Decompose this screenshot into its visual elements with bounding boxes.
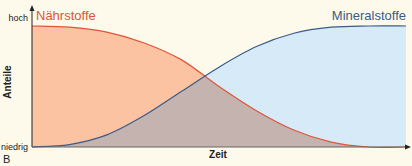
legend-naehrstoffe: Nährstoffe (36, 8, 96, 23)
x-axis-arrow-icon (405, 145, 411, 150)
y-tick-low: niedrig (1, 142, 28, 152)
y-axis-arrow-icon (30, 5, 35, 11)
y-axis-label: Anteile (2, 65, 13, 99)
y-tick-high: hoch (8, 13, 28, 23)
x-axis-label: Zeit (209, 149, 227, 160)
chart: hoch niedrig Anteile Zeit Nährstoffe Min… (0, 0, 412, 166)
legend-mineralstoffe: Mineralstoffe (332, 8, 406, 23)
panel-label: B (3, 153, 10, 165)
